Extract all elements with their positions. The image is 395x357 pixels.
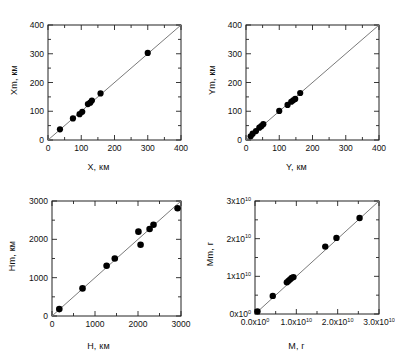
panel-x-reference-line — [48, 25, 181, 140]
panel-x-canvas: 0 100 200 300 400 0 100 200 300 400 — [0, 0, 197, 178]
svg-text:1000: 1000 — [29, 273, 48, 283]
svg-text:300: 300 — [228, 49, 242, 59]
svg-text:1.0x1010: 1.0x1010 — [281, 317, 313, 328]
panel-m-canvas: 0.0x100 1.0x1010 2.0x1010 3.0x1010 0x100… — [198, 179, 395, 357]
panel-y-xaxis-label: Y, км — [198, 162, 395, 172]
panel-y-yticklabels: 0 100 200 300 400 — [228, 20, 242, 145]
panel-m-yaxis-label: Mm, г — [205, 224, 215, 284]
svg-text:0: 0 — [244, 143, 249, 153]
panel-y-xticklabels: 0 100 200 300 400 — [244, 143, 387, 153]
svg-text:1x1010: 1x1010 — [226, 271, 251, 282]
svg-text:400: 400 — [372, 143, 386, 153]
svg-text:200: 200 — [305, 143, 319, 153]
panel-h-xticklabels: 0 1000 2000 3000 — [50, 319, 191, 329]
panel-x-yticklabels: 0 100 200 300 400 — [30, 20, 44, 145]
svg-text:0: 0 — [50, 319, 55, 329]
panel-m-xaxis-label: M, г — [198, 341, 395, 351]
svg-text:1000: 1000 — [86, 319, 105, 329]
svg-text:300: 300 — [30, 49, 44, 59]
svg-text:100: 100 — [74, 143, 88, 153]
svg-text:200: 200 — [228, 78, 242, 88]
svg-text:2.0x1010: 2.0x1010 — [322, 317, 354, 328]
svg-text:3x1010: 3x1010 — [226, 196, 251, 207]
svg-text:0x100: 0x100 — [230, 309, 252, 320]
panel-y-yaxis-label: Ym, км — [207, 50, 217, 110]
panel-m-xticklabels: 0.0x100 1.0x1010 2.0x1010 3.0x1010 — [241, 317, 395, 328]
svg-text:200: 200 — [30, 78, 44, 88]
svg-text:300: 300 — [141, 143, 155, 153]
panel-y: 0 100 200 300 400 0 100 200 300 400 — [198, 0, 395, 178]
panel-h-canvas: 0 1000 2000 3000 0 1000 2000 3000 — [0, 179, 197, 357]
svg-text:200: 200 — [107, 143, 121, 153]
panel-h: 0 1000 2000 3000 0 1000 2000 3000 — [0, 179, 197, 357]
panel-m: 0.0x100 1.0x1010 2.0x1010 3.0x1010 0x100… — [198, 179, 395, 357]
svg-text:100: 100 — [30, 106, 44, 116]
panel-x: 0 100 200 300 400 0 100 200 300 400 — [0, 0, 197, 178]
svg-text:3000: 3000 — [29, 196, 48, 206]
panel-h-xaxis-label: H, км — [0, 341, 197, 351]
panel-m-yticklabels: 0x100 1x1010 2x1010 3x1010 — [226, 196, 251, 320]
svg-text:0: 0 — [237, 135, 242, 145]
panel-x-yaxis-label: Xm, км — [9, 50, 19, 110]
svg-text:2000: 2000 — [29, 234, 48, 244]
panel-h-yaxis-label: Hm, км — [7, 226, 17, 286]
panel-x-xaxis-label: X, км — [0, 162, 197, 172]
svg-text:400: 400 — [174, 143, 188, 153]
svg-text:100: 100 — [272, 143, 286, 153]
svg-text:2x1010: 2x1010 — [226, 233, 251, 244]
svg-text:400: 400 — [228, 20, 242, 30]
panel-y-canvas: 0 100 200 300 400 0 100 200 300 400 — [198, 0, 395, 178]
svg-text:3000: 3000 — [172, 319, 191, 329]
svg-text:3.0x1010: 3.0x1010 — [363, 317, 395, 328]
svg-text:300: 300 — [339, 143, 353, 153]
svg-text:0: 0 — [43, 311, 48, 321]
panel-x-xticklabels: 0 100 200 300 400 — [46, 143, 189, 153]
svg-text:0: 0 — [46, 143, 51, 153]
svg-text:400: 400 — [30, 20, 44, 30]
svg-text:0: 0 — [39, 135, 44, 145]
figure-four-panel-scatter: 0 100 200 300 400 0 100 200 300 400 — [0, 0, 395, 357]
svg-text:100: 100 — [228, 106, 242, 116]
panel-h-yticklabels: 0 1000 2000 3000 — [29, 196, 48, 321]
svg-text:2000: 2000 — [129, 319, 148, 329]
